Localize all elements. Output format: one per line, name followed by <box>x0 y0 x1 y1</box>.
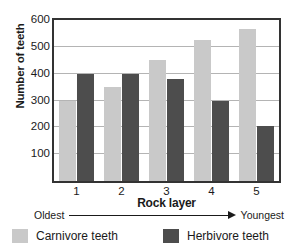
chart-title <box>0 0 293 1</box>
y-tick-label: 300 <box>4 95 50 107</box>
y-axis-tick-labels: 100200300400500600 <box>0 18 50 183</box>
y-tick-label: 600 <box>4 14 50 26</box>
bar-carnivore-layer-5 <box>239 29 256 181</box>
right-arrow-icon <box>69 211 235 220</box>
bar-herbivore-layer-5 <box>257 126 274 181</box>
y-tick-label: 100 <box>4 148 50 160</box>
y-tick-label: 200 <box>4 122 50 134</box>
bar-carnivore-layer-2 <box>104 87 121 181</box>
y-tick-label: 500 <box>4 41 50 53</box>
bar-carnivore-layer-4 <box>194 40 211 181</box>
bar-herbivore-layer-2 <box>122 74 139 181</box>
age-label-oldest: Oldest <box>34 209 64 221</box>
y-tick-label: 400 <box>4 68 50 80</box>
age-direction-scale: Oldest Youngest <box>34 208 284 222</box>
bar-chart-figure: Number of teeth 100200300400500600 12345… <box>0 0 293 250</box>
bar-herbivore-layer-3 <box>167 79 184 181</box>
chart-legend: Carnivore teeth Herbivore teeth <box>0 227 293 247</box>
bar-carnivore-layer-1 <box>59 101 76 182</box>
age-label-youngest: Youngest <box>241 209 284 221</box>
bar-carnivore-layer-3 <box>149 60 166 181</box>
legend-swatch-light <box>12 229 28 243</box>
plot-area <box>52 18 281 183</box>
legend-label-herbivore: Herbivore teeth <box>187 229 269 243</box>
legend-swatch-dark <box>163 229 179 243</box>
plot-inner <box>54 20 279 181</box>
legend-label-carnivore: Carnivore teeth <box>36 229 118 243</box>
legend-item-carnivore: Carnivore teeth <box>12 227 118 245</box>
legend-item-herbivore: Herbivore teeth <box>163 227 269 245</box>
bar-herbivore-layer-1 <box>77 74 94 181</box>
bar-herbivore-layer-4 <box>212 101 229 182</box>
